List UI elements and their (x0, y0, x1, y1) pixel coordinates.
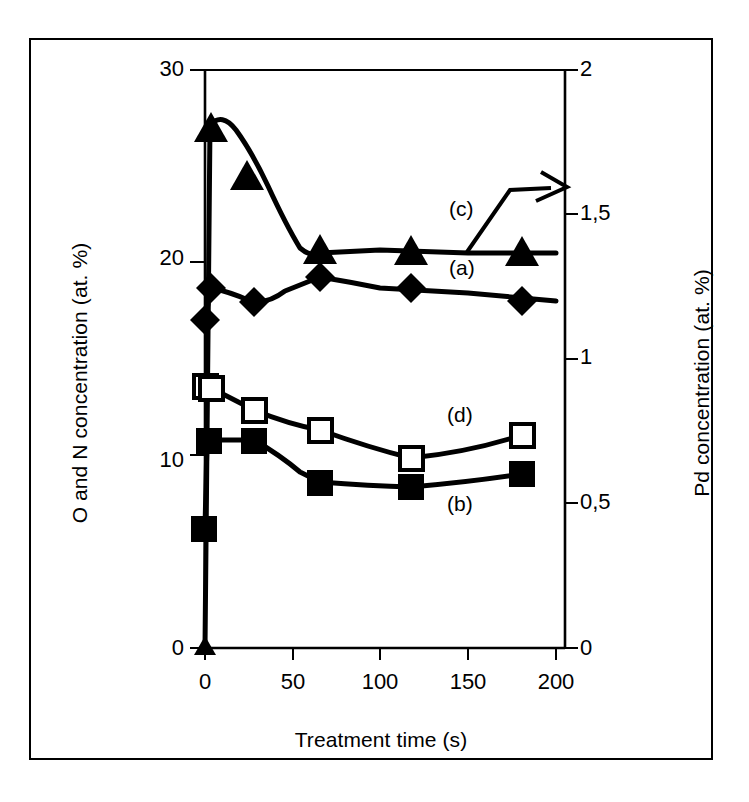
marker-open-square (511, 424, 534, 447)
marker-open-square (400, 447, 423, 470)
marker-diamond (396, 273, 426, 303)
c-axis-arrow (467, 172, 567, 252)
figure-container: 30 20 10 0 2 1,5 1 0,5 0 0 50 100 150 20… (0, 0, 749, 802)
marker-triangle (194, 112, 228, 142)
marker-open-square (200, 377, 223, 400)
y-right-ticks (565, 70, 578, 648)
marker-diamond (305, 262, 335, 292)
marker-triangle (303, 234, 337, 264)
x-ticks (205, 648, 556, 660)
marker-filled-square (307, 470, 333, 496)
chart-plot-area (0, 0, 749, 802)
series-c-markers (194, 112, 539, 655)
marker-open-square (309, 419, 332, 442)
marker-filled-square (509, 461, 535, 487)
y-left-ticks (190, 70, 205, 648)
marker-filled-square (398, 474, 424, 500)
marker-diamond (190, 305, 220, 335)
axes-spines (205, 70, 565, 648)
marker-filled-square (191, 516, 217, 542)
marker-diamond (196, 273, 226, 303)
series-d-markers (194, 375, 534, 470)
marker-filled-square (241, 428, 267, 454)
marker-open-square (243, 399, 266, 422)
marker-filled-square (196, 428, 222, 454)
marker-diamond (507, 286, 537, 316)
marker-diamond (239, 287, 269, 317)
marker-triangle (194, 636, 216, 655)
